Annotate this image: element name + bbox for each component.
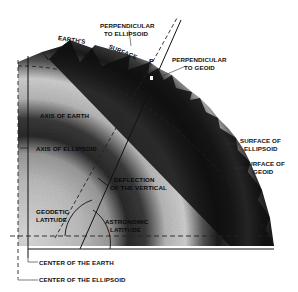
- label-deflection-1: DEFLECTION: [114, 176, 155, 183]
- label-perp-geoid-2: TO GEOID: [184, 64, 215, 71]
- label-perp-geoid-1: PERPENDICULAR: [172, 56, 227, 63]
- label-perp-ellipsoid-1: PERPENDICULAR: [100, 22, 155, 29]
- label-geodetic-2: LATITUDE: [36, 216, 67, 223]
- label-surface-ellipsoid-2: ELLIPSOID: [244, 145, 278, 152]
- label-astronomic-2: LATITUDE: [110, 226, 141, 233]
- label-surface-ellipsoid-1: SURFACE OF: [240, 137, 281, 144]
- label-perp-ellipsoid-2: TO ELLIPSOID: [104, 30, 148, 37]
- label-center-earth: CENTER OF THE EARTH: [39, 259, 114, 266]
- label-deflection-2: OF THE VERTICAL: [110, 184, 167, 191]
- label-geodetic-1: GEODETIC: [36, 208, 69, 215]
- label-surface-geoid-2: GEOID: [253, 168, 273, 175]
- label-center-ellipsoid: CENTER OF THE ELLIPSOID: [39, 276, 126, 283]
- point-p-marker: [150, 76, 153, 80]
- label-point-p: P: [149, 58, 154, 65]
- label-axis-of-earth: AXIS OF EARTH: [40, 112, 89, 119]
- label-astronomic-1: ASTRONOMIC: [105, 218, 148, 225]
- leader-center-ellipsoid: [18, 278, 38, 280]
- leader-center-earth: [28, 258, 38, 262]
- diagram-stage: EARTH'S SURFACE PERPENDICULAR TO ELLIPSO…: [0, 0, 298, 292]
- label-axis-of-ellipsoid: AXIS OF ELLIPSOID: [36, 145, 97, 152]
- label-surface-geoid-1: SURFACE OF: [244, 160, 285, 167]
